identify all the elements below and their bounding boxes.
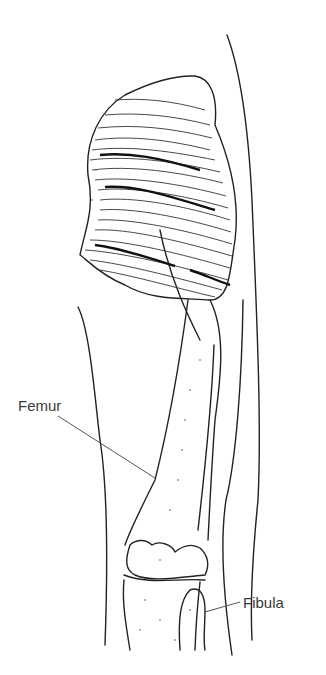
femur-bone-right	[198, 345, 214, 530]
muscle-outline	[80, 76, 236, 300]
anatomy-drawing	[0, 0, 326, 675]
femur-condyles	[127, 540, 208, 578]
tendon	[208, 300, 221, 540]
femur-leader-line	[58, 416, 155, 478]
bone-stipple	[91, 169, 201, 641]
label-femur: Femur	[18, 397, 61, 414]
thigh-left-contour	[78, 307, 107, 645]
fibula-leader-line	[205, 602, 240, 612]
tibia-bone-right	[195, 582, 200, 650]
label-fibula: Fibula	[243, 594, 284, 611]
fibula-bone	[179, 589, 205, 650]
tibia-bone	[123, 580, 130, 650]
thigh-right-line	[223, 300, 243, 655]
muscle-fibers	[85, 99, 232, 297]
femur-bone	[125, 300, 188, 545]
outer-contour-right	[227, 35, 259, 640]
